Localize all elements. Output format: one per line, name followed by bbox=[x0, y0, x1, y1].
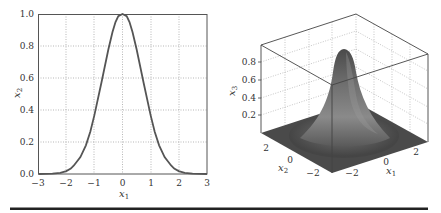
y-tick-label: 0.6 bbox=[20, 73, 35, 83]
right-z-axis-label: x3 bbox=[226, 86, 239, 96]
x-tick-label: 0 bbox=[120, 178, 126, 188]
figure: 0.0 0.2 0.4 0.6 0.8 1.0 −3 −2 −1 0 1 2 3… bbox=[0, 0, 441, 213]
x1-tick-label: 2 bbox=[413, 147, 419, 157]
x-tick-label: 3 bbox=[204, 178, 210, 188]
right-x1-axis-label: x1 bbox=[386, 165, 396, 178]
x-tick-label: −3 bbox=[31, 178, 45, 188]
left-y-axis-label: x2 bbox=[11, 88, 24, 98]
x-tick-label: 2 bbox=[176, 178, 182, 188]
z-tick-label: 0.8 bbox=[242, 57, 257, 67]
x1-tick-label: −2 bbox=[345, 168, 358, 178]
x-tick-label: −1 bbox=[87, 178, 100, 188]
x-tick-label: 1 bbox=[148, 178, 154, 188]
x2-tick-label: −2 bbox=[306, 168, 319, 178]
z-tick-label: 0.6 bbox=[242, 75, 257, 85]
x2-tick-label: 2 bbox=[263, 143, 269, 153]
left-plot: 0.0 0.2 0.4 0.6 0.8 1.0 −3 −2 −1 0 1 2 3… bbox=[11, 9, 210, 201]
y-tick-label: 0.4 bbox=[20, 105, 35, 115]
y-tick-label: 0.8 bbox=[20, 41, 35, 51]
left-x-tick-labels: −3 −2 −1 0 1 2 3 bbox=[31, 178, 210, 188]
figure-bottom-rule bbox=[10, 208, 428, 211]
z-tick-label: 0.4 bbox=[242, 93, 257, 103]
y-tick-label: 1.0 bbox=[20, 9, 35, 19]
right-z-tick-labels: 0.8 0.6 0.4 0.2 bbox=[242, 57, 257, 120]
y-tick-label: 0.2 bbox=[20, 137, 34, 147]
right-plot: 0.8 0.6 0.4 0.2 x3 2 0 −2 x2 −2 0 2 x1 bbox=[226, 14, 428, 178]
x2-tick-label: 0 bbox=[287, 155, 293, 165]
x-tick-label: −2 bbox=[59, 178, 72, 188]
z-tick-label: 0.2 bbox=[242, 110, 256, 120]
left-x-axis-label: x1 bbox=[119, 188, 129, 201]
left-grid bbox=[38, 14, 207, 174]
